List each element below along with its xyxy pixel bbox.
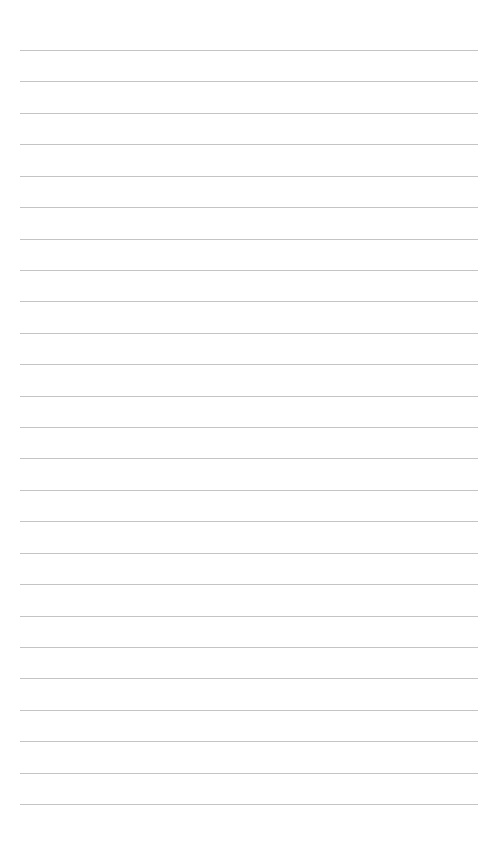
- ruled-line: [20, 176, 478, 177]
- ruled-line: [20, 270, 478, 271]
- ruled-line: [20, 773, 478, 774]
- ruled-line: [20, 553, 478, 554]
- ruled-line: [20, 427, 478, 428]
- ruled-line: [20, 584, 478, 585]
- ruled-line: [20, 616, 478, 617]
- ruled-line: [20, 113, 478, 114]
- ruled-line: [20, 396, 478, 397]
- lined-paper-page: [0, 0, 501, 841]
- ruled-line: [20, 364, 478, 365]
- ruled-line: [20, 458, 478, 459]
- ruled-line: [20, 710, 478, 711]
- ruled-line: [20, 50, 478, 51]
- ruled-line: [20, 490, 478, 491]
- ruled-line: [20, 301, 478, 302]
- ruled-line: [20, 647, 478, 648]
- ruled-line: [20, 239, 478, 240]
- ruled-line: [20, 521, 478, 522]
- ruled-line: [20, 741, 478, 742]
- ruled-line: [20, 333, 478, 334]
- ruled-line: [20, 144, 478, 145]
- ruled-line: [20, 207, 478, 208]
- ruled-line: [20, 81, 478, 82]
- ruled-line: [20, 678, 478, 679]
- ruled-line: [20, 804, 478, 805]
